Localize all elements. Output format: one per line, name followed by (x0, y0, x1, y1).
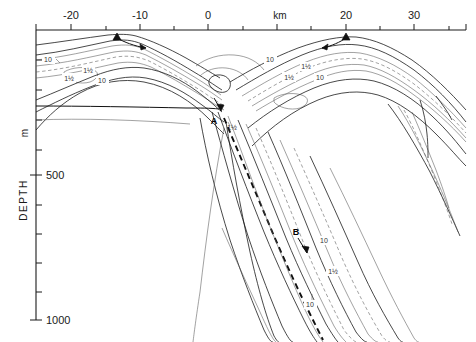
trough-isotherm (238, 120, 338, 342)
trough-isotherm (330, 168, 419, 342)
trough-isotherm (268, 132, 367, 342)
y-axis-unit-label: m (19, 129, 30, 137)
contour-label: 10 (98, 77, 106, 84)
trough-left-limb (200, 118, 273, 342)
leader-line (56, 59, 60, 63)
trough-left-limb-short (222, 228, 276, 342)
trough-isotherm (218, 112, 317, 342)
right-flank-isotherm-dashed (404, 110, 452, 224)
isotherm-line (200, 68, 248, 80)
y-tick-label: 1000 (46, 314, 70, 326)
arrowhead-icon (302, 246, 309, 253)
right-edge-short-line (436, 96, 452, 120)
contour-label: 10 (44, 56, 52, 63)
right-flank-isotherm (412, 112, 449, 208)
arrowhead-icon (140, 44, 146, 50)
trough-isotherm (310, 156, 403, 342)
x-tick-label: 0 (205, 9, 211, 21)
isotherm-line (36, 45, 221, 95)
isotherm-line (196, 55, 264, 70)
arrowhead-icon (322, 44, 328, 50)
left-margin-line (36, 119, 190, 124)
top-axis: -20 -10 0 km 20 30 (36, 9, 466, 30)
x-axis-unit-label: km (273, 10, 286, 21)
contour-label: 10 (320, 237, 328, 244)
y-tick-label: 500 (46, 169, 64, 181)
marker-label-b: B (293, 227, 300, 237)
isotherm-line-dashed (248, 58, 466, 133)
x-tick-label: 20 (340, 9, 352, 21)
trough-isotherm-dashed (256, 128, 356, 342)
isotherm-closed-loop (274, 94, 307, 110)
contour-depth-section-figure: -20 -10 0 km 20 30 500 1000 m DEPTH (0, 0, 476, 342)
contour-label: 1½ (64, 75, 74, 82)
y-axis-title: DEPTH (18, 179, 29, 220)
contour-label: 10 (306, 301, 314, 308)
contour-label-group: 10 1½ 1½ 10 10 1½ 1½ 10 10 1½ 10 (42, 55, 340, 309)
contour-label: 1½ (328, 268, 338, 275)
contour-label: 1½ (301, 63, 311, 70)
marker-label-a: A (211, 116, 218, 126)
arrowhead-icon (217, 104, 224, 111)
chart-svg: -20 -10 0 km 20 30 500 1000 m DEPTH (0, 0, 476, 342)
marker-value-half-a: 1½ (227, 124, 237, 131)
x-tick-label: -20 (63, 9, 79, 21)
contour-label: 10 (316, 74, 324, 81)
x-tick-label: 30 (408, 9, 420, 21)
level-line-A (36, 106, 219, 109)
isotherm-line (36, 77, 224, 122)
x-tick-label: -10 (132, 9, 148, 21)
contour-label: 1½ (83, 67, 93, 74)
contour-label: 10 (266, 56, 274, 63)
trough-left-limb (212, 112, 293, 342)
isotherm-line-10 (248, 79, 466, 154)
contour-label: 1½ (284, 74, 294, 81)
